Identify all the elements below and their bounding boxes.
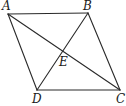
diagonal-ac [8,14,120,90]
segment-da [8,14,37,90]
vertex-label-d: D [32,93,42,105]
diagram-canvas [0,0,126,106]
diagonal-bd [37,13,88,90]
intersection-label-e: E [59,56,68,68]
vertex-label-c: C [116,93,125,105]
segment-ab [8,13,88,14]
parallelogram-diagram: A B E D C [0,0,126,106]
vertex-label-a: A [2,0,11,12]
segment-bc [88,13,120,90]
vertex-label-b: B [83,0,92,12]
